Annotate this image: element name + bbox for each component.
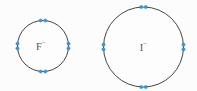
- electron-dot: [182, 48, 185, 51]
- ion-fluoride-charge: −: [42, 39, 46, 47]
- electron-dot: [16, 47, 19, 50]
- electron-dot: [39, 70, 42, 73]
- ion-fluoride: F−: [16, 19, 70, 73]
- diagram-canvas: F−I−: [0, 0, 197, 91]
- electron-dot: [67, 47, 70, 50]
- electron-dot: [16, 42, 19, 45]
- electron-dot: [144, 5, 147, 8]
- ion-size-diagram: F−I−: [0, 0, 197, 91]
- electron-dot: [144, 85, 147, 88]
- ion-iodide-charge: −: [143, 40, 147, 48]
- electron-dot: [182, 43, 185, 46]
- electron-dot: [67, 42, 70, 45]
- electron-dot: [44, 19, 47, 22]
- electron-dot: [140, 5, 143, 8]
- electron-dot: [39, 19, 42, 22]
- electron-dot: [102, 43, 105, 46]
- ion-iodide: I−: [102, 5, 185, 88]
- electron-dot: [102, 48, 105, 51]
- electron-dot: [44, 70, 47, 73]
- electron-dot: [140, 85, 143, 88]
